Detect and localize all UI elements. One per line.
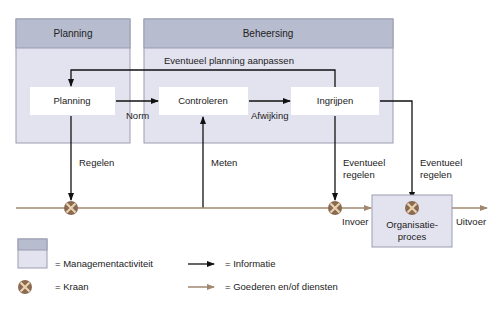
norm-label: Norm: [126, 110, 149, 121]
eventueel-regelen-2-line1: Eventueel: [420, 157, 462, 168]
beheersing-panel: Beheersing Eventueel planning aanpassen: [144, 19, 393, 143]
feedback-label: Eventueel planning aanpassen: [164, 55, 294, 66]
valve-icon: [328, 201, 342, 215]
valve-icon: [64, 201, 78, 215]
organisatieproces-line2: proces: [398, 231, 427, 242]
node-planning: Planning: [30, 87, 115, 115]
legend-valve-icon: [18, 280, 32, 294]
node-ingrijpen: Ingrijpen: [291, 87, 379, 115]
node-ingrijpen-label: Ingrijpen: [317, 95, 353, 106]
afwijking-label: Afwijking: [251, 110, 289, 121]
legend: = Managementactiviteit = Kraan = Informa…: [18, 239, 338, 294]
control-loop-diagram: Planning Beheersing Eventueel planning a…: [0, 0, 503, 313]
invoer-label: Invoer: [342, 216, 368, 227]
beheersing-panel-title: Beheersing: [243, 28, 294, 39]
regelen-label: Regelen: [79, 157, 114, 168]
legend-informatie-label: = Informatie: [225, 258, 275, 269]
legend-kraan-label: = Kraan: [55, 281, 89, 292]
node-controleren-label: Controleren: [178, 95, 228, 106]
planning-panel: Planning: [16, 19, 130, 143]
valve-icon: [405, 201, 419, 215]
meten-label: Meten: [211, 157, 237, 168]
node-controleren: Controleren: [159, 87, 248, 115]
legend-management-label: = Managementactiviteit: [55, 258, 153, 269]
legend-management-swatch: [18, 239, 47, 268]
uitvoer-label: Uitvoer: [456, 216, 486, 227]
legend-goederen-label: = Goederen en/of diensten: [225, 281, 338, 292]
eventueel-regelen-1-line1: Eventueel: [343, 157, 385, 168]
node-planning-label: Planning: [54, 95, 91, 106]
organisatieproces-line1: Organisatie-: [386, 219, 438, 230]
eventueel-regelen-2-line2: regelen: [420, 169, 452, 180]
eventueel-regelen-1-line2: regelen: [343, 169, 375, 180]
planning-panel-title: Planning: [54, 28, 93, 39]
